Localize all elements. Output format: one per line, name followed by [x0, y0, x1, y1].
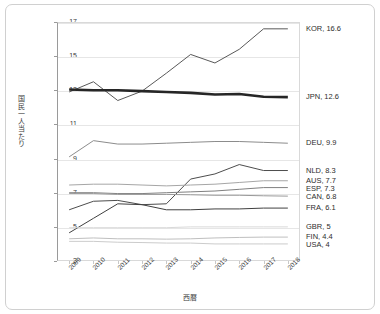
legend-label-gbr: GBR, 5 — [306, 223, 331, 231]
series-line-nld — [69, 165, 288, 210]
legend-label-deu: DEU, 9.9 — [306, 139, 336, 147]
legend-label-kor: KOR, 16.6 — [306, 25, 341, 33]
legend-label-jpn: JPN, 12.6 — [306, 93, 339, 101]
x-axis-title: 西暦 — [0, 292, 380, 302]
legend-label-usa: USA, 4 — [306, 241, 330, 249]
series-line-aus — [69, 181, 288, 186]
series-line-deu — [69, 141, 288, 157]
series-line-gbr — [69, 227, 288, 228]
series-line-jpn — [69, 89, 288, 97]
series-line-usa — [69, 241, 288, 244]
series-line-fra — [69, 204, 288, 233]
legend-label-can: CAN, 6.8 — [306, 193, 336, 201]
legend-label-fra: FRA, 6.1 — [306, 204, 336, 212]
chart-container: 国民一人当たり 357911131517 2009201020112012201… — [0, 0, 380, 314]
y-axis-title: 国民一人当たり — [16, 95, 27, 148]
legend-label-nld: NLD, 8.3 — [306, 167, 336, 175]
series-line-can — [69, 194, 288, 197]
series-line-group — [57, 22, 300, 261]
y-axis-tick-mark — [54, 261, 57, 262]
series-line-fin — [69, 237, 288, 239]
series-line-esp — [69, 188, 288, 194]
